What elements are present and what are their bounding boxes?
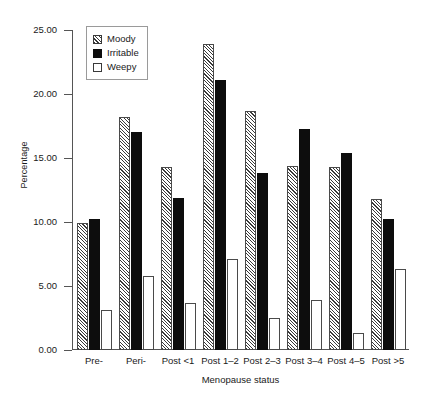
y-axis-tick-label: 20.00 bbox=[11, 89, 57, 99]
bar-weepy bbox=[227, 259, 238, 350]
x-axis-tick-label: Pre- bbox=[73, 355, 115, 366]
bar-irritable bbox=[215, 80, 226, 350]
bar-irritable bbox=[299, 129, 310, 350]
bar-group bbox=[157, 30, 199, 350]
y-axis-tick bbox=[64, 158, 72, 159]
bar-irritable bbox=[257, 173, 268, 350]
legend-item-irritable: Irritable bbox=[93, 46, 139, 60]
bar-irritable bbox=[131, 132, 142, 350]
x-axis-tick-label: Post 3–4 bbox=[283, 355, 325, 366]
bar-group bbox=[325, 30, 367, 350]
bar-group bbox=[241, 30, 283, 350]
bar-moody bbox=[119, 117, 130, 350]
bar-weepy bbox=[185, 303, 196, 350]
legend-swatch-moody-icon bbox=[93, 35, 102, 44]
y-axis-tick-label: 25.00 bbox=[11, 25, 57, 35]
y-axis-tick bbox=[64, 94, 72, 95]
bar-weepy bbox=[269, 318, 280, 350]
bar-irritable bbox=[383, 219, 394, 350]
legend-label-weepy: Weepy bbox=[107, 62, 136, 72]
bar-moody bbox=[287, 166, 298, 350]
bar-irritable bbox=[173, 198, 184, 350]
y-axis-tick bbox=[64, 222, 72, 223]
y-axis-tick-label: 10.00 bbox=[11, 217, 57, 227]
bar-weepy bbox=[143, 276, 154, 350]
y-axis-tick-label: 5.00 bbox=[11, 281, 57, 291]
x-axis-tick-label: Post 1–2 bbox=[199, 355, 241, 366]
x-axis-title: Menopause status bbox=[72, 374, 409, 385]
y-axis-tick-label: 0.00 bbox=[11, 345, 57, 355]
legend-swatch-irritable-icon bbox=[93, 49, 102, 58]
legend-label-moody: Moody bbox=[107, 34, 136, 44]
bar-weepy bbox=[311, 300, 322, 350]
bar-moody bbox=[77, 223, 88, 350]
bar-moody bbox=[161, 167, 172, 350]
y-axis-tick-label: 15.00 bbox=[11, 153, 57, 163]
y-axis-tick bbox=[64, 350, 72, 351]
bar-weepy bbox=[101, 310, 112, 350]
bar-group bbox=[199, 30, 241, 350]
bar-chart: Percentage 0.005.0010.0015.0020.0025.00 … bbox=[0, 0, 421, 408]
bar-group bbox=[367, 30, 409, 350]
legend-swatch-weepy-icon bbox=[93, 63, 102, 72]
bar-weepy bbox=[395, 269, 406, 350]
y-axis-title: Percentage bbox=[19, 105, 29, 225]
bar-moody bbox=[371, 199, 382, 350]
legend-label-irritable: Irritable bbox=[107, 48, 139, 58]
bar-moody bbox=[245, 111, 256, 350]
bar-weepy bbox=[353, 333, 364, 350]
x-axis-tick-label: Post <1 bbox=[157, 355, 199, 366]
bar-group bbox=[283, 30, 325, 350]
legend-item-weepy: Weepy bbox=[93, 60, 139, 74]
x-axis-tick-label: Post 2–3 bbox=[241, 355, 283, 366]
x-axis-tick-label: Peri- bbox=[115, 355, 157, 366]
bar-irritable bbox=[341, 153, 352, 350]
x-axis-tick-label: Post >5 bbox=[367, 355, 409, 366]
bar-irritable bbox=[89, 219, 100, 350]
x-axis-tick-labels: Pre-Peri-Post <1Post 1–2Post 2–3Post 3–4… bbox=[73, 355, 409, 366]
bar-moody bbox=[203, 44, 214, 350]
x-axis-tick-label: Post 4–5 bbox=[325, 355, 367, 366]
chart-legend: Moody Irritable Weepy bbox=[86, 26, 148, 80]
y-axis-tick bbox=[64, 286, 72, 287]
bar-moody bbox=[329, 167, 340, 350]
legend-item-moody: Moody bbox=[93, 32, 139, 46]
y-axis-tick bbox=[64, 30, 72, 31]
